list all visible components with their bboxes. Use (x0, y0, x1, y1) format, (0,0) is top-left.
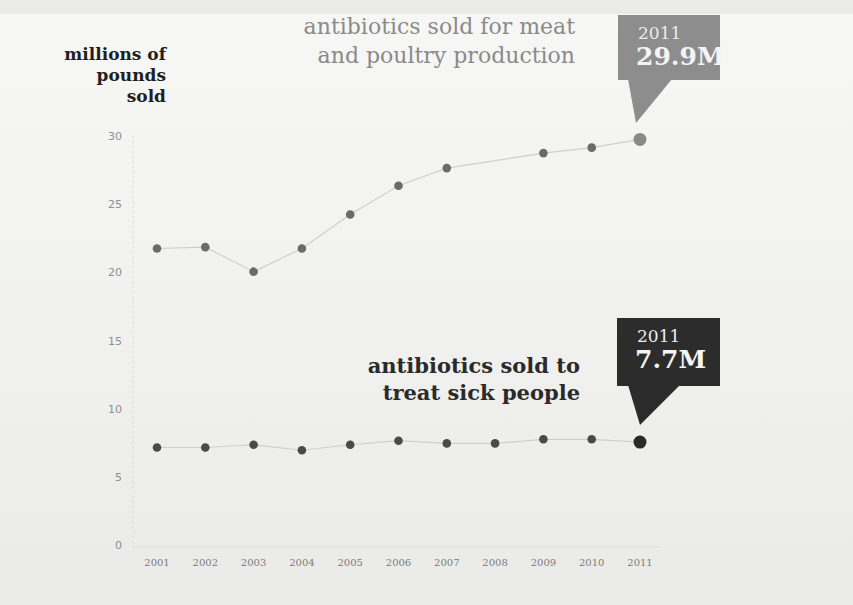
data-point (394, 436, 403, 445)
data-point (634, 436, 647, 449)
data-point (298, 244, 307, 253)
data-point (634, 133, 647, 146)
data-point (587, 143, 596, 152)
meat-callout: 2011 29.9M (618, 15, 720, 80)
data-point (539, 435, 548, 444)
people-callout: 2011 7.7M (617, 318, 720, 386)
data-point (539, 149, 548, 158)
data-point (153, 244, 162, 253)
series-line (157, 139, 640, 271)
line-chart-plot (0, 0, 853, 605)
meat-callout-value: 29.9M (636, 42, 725, 72)
data-point (298, 446, 307, 455)
meat-callout-pointer (628, 79, 672, 123)
data-point (201, 243, 210, 252)
meat-callout-year: 2011 (638, 23, 681, 43)
data-point (443, 164, 452, 173)
people-callout-year: 2011 (637, 326, 680, 346)
data-point (346, 440, 355, 449)
data-point (346, 210, 355, 219)
people-callout-pointer (628, 385, 680, 425)
data-point (249, 267, 258, 276)
people-callout-value: 7.7M (635, 345, 706, 375)
data-point (587, 435, 596, 444)
data-point (443, 439, 452, 448)
data-point (201, 443, 210, 452)
data-point (153, 443, 162, 452)
data-point (491, 439, 500, 448)
data-point (249, 440, 258, 449)
data-point (394, 182, 403, 191)
